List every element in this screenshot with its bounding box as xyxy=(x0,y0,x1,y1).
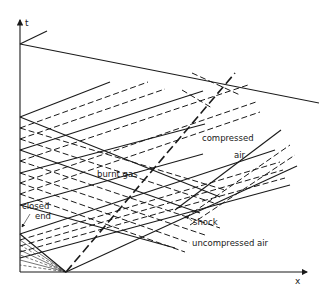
burnt-gas-label: burnt gas xyxy=(97,169,138,179)
closed-end-label-line2: end xyxy=(35,211,51,221)
axes xyxy=(20,20,307,272)
wave-diagram: t x burnt gas compressed air closed end … xyxy=(0,0,319,294)
x-axis-label: x xyxy=(295,276,301,286)
shock-label: shock xyxy=(193,217,218,227)
closed-end-label-line1: closed xyxy=(22,201,49,211)
compressed-air-label-line2: air xyxy=(234,150,246,160)
uncompressed-air-label: uncompressed air xyxy=(192,238,269,248)
t-axis-label: t xyxy=(25,18,29,28)
closed-end-pointer xyxy=(22,214,30,227)
upper-characteristics xyxy=(20,31,319,248)
compressed-air-label-line1: compressed xyxy=(202,133,254,143)
